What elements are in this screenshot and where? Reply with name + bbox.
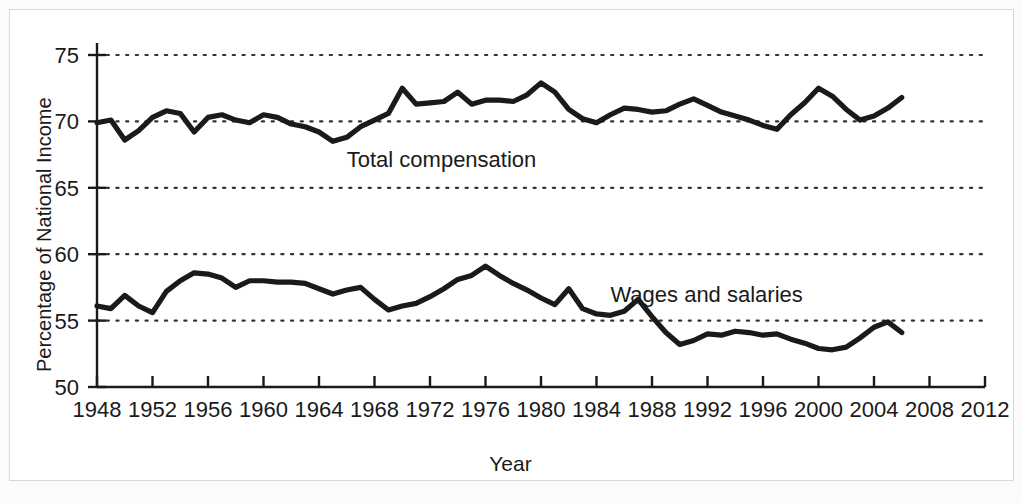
x-tick-label: 1956 (184, 397, 233, 422)
y-tick-label: 55 (55, 309, 79, 334)
chart-figure: 5055606570751948195219561960196419681972… (0, 0, 1021, 503)
x-tick-label: 1960 (239, 397, 288, 422)
x-tick-label: 2008 (905, 397, 954, 422)
x-tick-label: 2012 (961, 397, 1010, 422)
x-tick-label: 1992 (683, 397, 732, 422)
series-line-total-compensation (97, 83, 902, 141)
x-tick-label: 1996 (739, 397, 788, 422)
chart-plot-area: 5055606570751948195219561960196419681972… (0, 0, 1021, 503)
series-annotation-wages-and-salaries: Wages and salaries (610, 282, 802, 307)
x-axis-title: Year (0, 452, 1021, 476)
series-annotation-total-compensation: Total compensation (347, 147, 537, 172)
x-tick-label: 1952 (128, 397, 177, 422)
x-tick-label: 1980 (517, 397, 566, 422)
x-tick-label: 2000 (794, 397, 843, 422)
x-tick-label: 1976 (461, 397, 510, 422)
series-line-wages-and-salaries (97, 266, 902, 350)
y-tick-label: 65 (55, 176, 79, 201)
x-tick-label: 2004 (850, 397, 899, 422)
x-tick-label: 1948 (73, 397, 122, 422)
y-tick-label: 60 (55, 242, 79, 267)
y-tick-label: 75 (55, 43, 79, 68)
x-tick-label: 1964 (295, 397, 344, 422)
x-tick-label: 1984 (572, 397, 621, 422)
y-axis-title: Percentage of National Income (33, 97, 56, 372)
x-tick-label: 1972 (406, 397, 455, 422)
x-tick-label: 1988 (628, 397, 677, 422)
y-tick-label: 70 (55, 109, 79, 134)
x-tick-label: 1968 (350, 397, 399, 422)
